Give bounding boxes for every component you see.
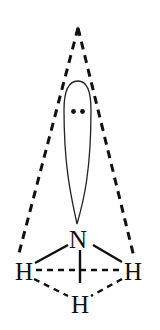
lone-pair-electron — [80, 109, 85, 114]
lone-pair-lobe — [64, 81, 91, 224]
lone-pair-electron — [71, 109, 76, 114]
dashed-base-right-bottom — [91, 279, 122, 296]
dashed-edge-apex-right — [78, 28, 134, 257]
atom-hydrogen-right: H — [124, 258, 142, 285]
atom-hydrogen-left: H — [15, 258, 33, 285]
dashed-edge-apex-left — [18, 28, 78, 257]
atom-nitrogen: N — [69, 226, 87, 253]
ammonia-geometry-diagram: N H H H — [0, 0, 160, 330]
dashed-base-left-bottom — [34, 279, 68, 296]
bond-n-h-right — [93, 245, 122, 262]
apex-tip — [75, 26, 81, 34]
bond-n-h-left — [35, 245, 68, 263]
atom-hydrogen-bottom: H — [71, 291, 89, 318]
